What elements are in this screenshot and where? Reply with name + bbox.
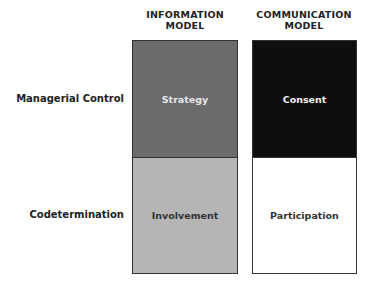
cell-participation: Participation (253, 158, 356, 273)
cell-involvement-label: Involvement (152, 210, 219, 221)
cell-consent-label: Consent (283, 94, 327, 105)
header-information-line2: MODEL (125, 20, 245, 31)
header-communication-line1: COMMUNICATION (244, 9, 364, 20)
cell-involvement: Involvement (133, 158, 237, 273)
cell-consent: Consent (253, 41, 356, 158)
header-communication-line2: MODEL (244, 20, 364, 31)
cell-strategy: Strategy (133, 41, 237, 158)
header-information-line1: INFORMATION (125, 9, 245, 20)
header-information-model: INFORMATION MODEL (125, 9, 245, 31)
communication-model-box: Consent Participation (252, 40, 357, 274)
information-model-box: Strategy Involvement (132, 40, 238, 274)
row-label-managerial-control: Managerial Control (0, 93, 124, 104)
header-communication-model: COMMUNICATION MODEL (244, 9, 364, 31)
cell-strategy-label: Strategy (162, 94, 208, 105)
cell-participation-label: Participation (270, 210, 339, 221)
row-label-codetermination: Codetermination (0, 209, 124, 220)
